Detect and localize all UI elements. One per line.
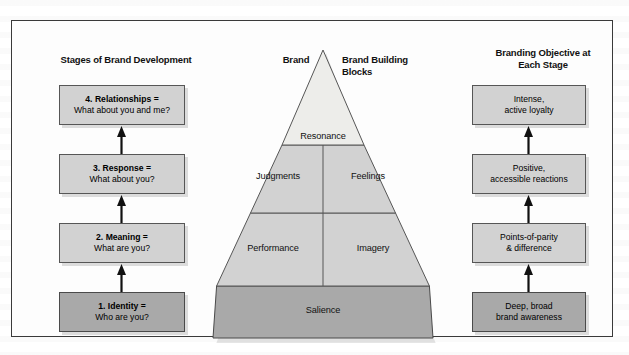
- pyramid-label-judgments: Judgments: [233, 171, 323, 181]
- stage-title: 1. Identity =: [98, 301, 146, 313]
- pyramid-label-feelings: Feelings: [323, 171, 413, 181]
- right-header-line1: Branding Objective at: [495, 47, 590, 58]
- stage-question: What are you?: [94, 243, 150, 255]
- stage-box-identity[interactable]: 1. Identity = Who are you?: [59, 292, 185, 332]
- column-header-stages: Stages of Brand Development: [36, 54, 216, 66]
- column-header-branding-objective: Branding Objective at Each Stage: [478, 47, 608, 71]
- stage-box-meaning[interactable]: 2. Meaning = What are you?: [59, 223, 185, 263]
- objective-line2: brand awareness: [496, 312, 562, 324]
- pyramid-label-resonance: Resonance: [207, 131, 439, 141]
- stage-title: 4. Relationships =: [85, 94, 158, 106]
- brand-resonance-pyramid: Resonance Judgments Feelings Performance…: [207, 43, 439, 343]
- up-arrow-icon: [523, 126, 534, 154]
- objective-box-reactions[interactable]: Positive, accessible reactions: [472, 154, 586, 194]
- stage-question: What about you?: [90, 174, 155, 186]
- objective-line1: Intense,: [514, 94, 545, 106]
- objective-box-loyalty[interactable]: Intense, active loyalty: [472, 85, 586, 125]
- objective-line2: & difference: [506, 243, 552, 255]
- stage-question: Who are you?: [95, 312, 149, 324]
- right-header-line2: Each Stage: [518, 59, 568, 70]
- stage-question: What about you and me?: [74, 105, 170, 117]
- objective-line2: active loyalty: [504, 105, 553, 117]
- stage-title: 2. Meaning =: [96, 232, 148, 244]
- up-arrow-icon: [523, 195, 534, 223]
- objective-line1: Points-of-parity: [500, 232, 558, 244]
- objective-line1: Positive,: [513, 163, 545, 175]
- stage-title: 3. Response =: [93, 163, 151, 175]
- objective-line2: accessible reactions: [490, 174, 567, 186]
- figure-frame: Stages of Brand Development Brand Brand …: [11, 20, 613, 337]
- objective-line1: Deep, broad: [505, 301, 552, 313]
- up-arrow-icon: [116, 195, 127, 223]
- up-arrow-icon: [116, 264, 127, 292]
- objective-box-awareness[interactable]: Deep, broad brand awareness: [472, 292, 586, 332]
- pyramid-label-imagery: Imagery: [323, 243, 423, 253]
- pyramid-label-salience: Salience: [207, 305, 439, 315]
- stage-box-relationships[interactable]: 4. Relationships = What about you and me…: [59, 85, 185, 125]
- pyramid-label-performance: Performance: [223, 243, 323, 253]
- up-arrow-icon: [116, 126, 127, 154]
- stage-box-response[interactable]: 3. Response = What about you?: [59, 154, 185, 194]
- objective-box-points-of-parity[interactable]: Points-of-parity & difference: [472, 223, 586, 263]
- up-arrow-icon: [523, 264, 534, 292]
